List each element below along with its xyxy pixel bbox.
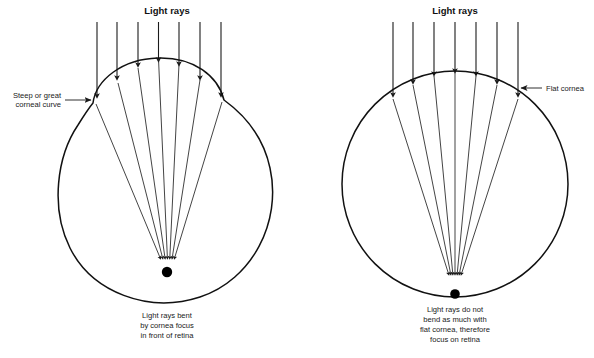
refracted-ray bbox=[170, 64, 179, 258]
figure-root: Light rays bbox=[0, 0, 594, 358]
diagram-canvas: Light rays bbox=[0, 0, 594, 358]
refracted-ray bbox=[138, 68, 165, 258]
caption-left-line1: Light rays bent bbox=[142, 311, 193, 320]
retina-dot-left bbox=[162, 267, 172, 277]
caption-left-line2: by cornea focus bbox=[140, 321, 194, 330]
caption-left-line3: in front of retina bbox=[141, 331, 195, 340]
refracted-rays-left bbox=[96, 59, 222, 258]
refracted-ray bbox=[459, 85, 497, 274]
caption-right-line3: flat cornea, therefore bbox=[420, 325, 490, 334]
caption-right-line4: focus on retina bbox=[430, 335, 481, 344]
retina-dot-right bbox=[450, 289, 460, 299]
eye-outline-steep bbox=[58, 58, 273, 303]
panel-title-right: Light rays bbox=[432, 5, 477, 16]
refracted-ray bbox=[434, 76, 453, 274]
annotation-flat-cornea-line1: Flat cornea bbox=[546, 84, 585, 93]
refracted-rays-right bbox=[393, 72, 518, 274]
panel-title-left: Light rays bbox=[144, 5, 189, 16]
steep-cornea-panel: Light rays bbox=[13, 5, 273, 340]
refracted-ray bbox=[96, 104, 160, 258]
annotation-steep-cornea-line1: Steep or great bbox=[13, 91, 62, 100]
caption-right-line2: bend as much with bbox=[423, 315, 486, 324]
refracted-ray bbox=[172, 80, 200, 258]
caption-right-line1: Light rays do not bbox=[427, 305, 484, 314]
annotation-steep-cornea-line2: corneal curve bbox=[15, 100, 61, 109]
incident-rays-left bbox=[97, 22, 221, 96]
refracted-ray bbox=[461, 99, 518, 274]
refracted-ray bbox=[457, 76, 476, 274]
refracted-ray bbox=[159, 59, 168, 258]
flat-cornea-panel: Light rays bbox=[342, 5, 585, 344]
refracted-ray bbox=[118, 83, 163, 258]
incident-rays-right bbox=[393, 22, 518, 95]
refracted-ray bbox=[175, 102, 222, 258]
